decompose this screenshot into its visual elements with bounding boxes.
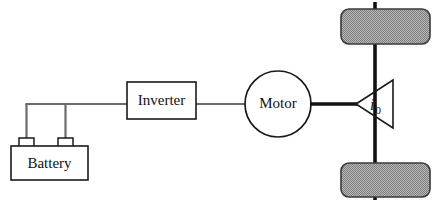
wheel-front[interactable] bbox=[341, 9, 430, 44]
motor-label: Motor bbox=[259, 95, 297, 111]
powertrain-diagram: Battery Inverter Motor i0 bbox=[0, 0, 439, 204]
battery-label: Battery bbox=[27, 155, 72, 171]
battery-block[interactable]: Battery bbox=[11, 138, 88, 180]
inverter-block[interactable]: Inverter bbox=[127, 82, 196, 119]
motor-block[interactable]: Motor bbox=[245, 71, 311, 137]
inverter-label: Inverter bbox=[138, 92, 185, 108]
gearbox-ratio-subscript: 0 bbox=[375, 104, 381, 116]
diagram-canvas: Battery Inverter Motor i0 bbox=[0, 0, 439, 204]
gearbox-ratio-base: i bbox=[370, 96, 374, 113]
wheel-rear[interactable] bbox=[341, 163, 430, 197]
